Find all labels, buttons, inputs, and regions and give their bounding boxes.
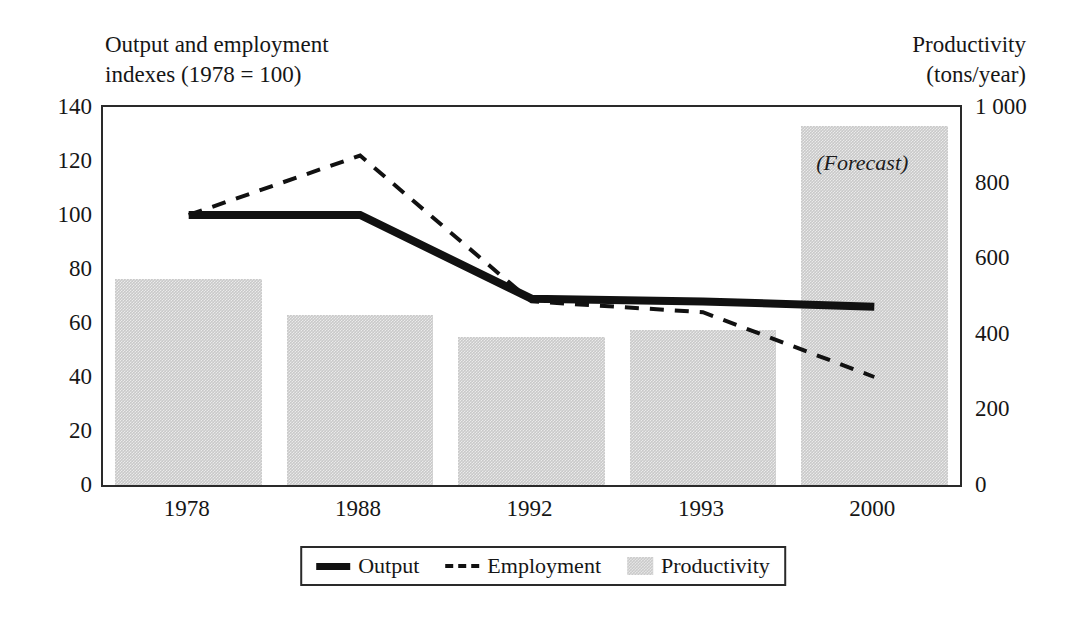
x-axis-tick: 1992 (507, 496, 553, 522)
legend-item-productivity[interactable]: Productivity (627, 553, 770, 579)
line-series-layer (103, 107, 960, 485)
legend-label: Output (358, 553, 419, 579)
right-axis-tick: 400 (975, 321, 1010, 347)
x-axis-tick: 1978 (164, 496, 210, 522)
left-axis-tick: 40 (69, 364, 92, 390)
x-axis-tick: 1993 (678, 496, 724, 522)
left-axis-tick: 80 (69, 256, 92, 282)
legend-swatch-filled-square-icon (627, 557, 653, 575)
left-axis-tick-labels: 140120100806040200 (0, 105, 92, 487)
x-axis-tick: 2000 (849, 496, 895, 522)
chart-root: Output and employment indexes (1978 = 10… (0, 0, 1086, 620)
left-axis-tick: 20 (69, 418, 92, 444)
left-axis-title-line2: indexes (1978 = 100) (105, 60, 329, 90)
plot-area: (Forecast) (101, 105, 962, 487)
line-employment (189, 156, 875, 377)
right-axis-tick: 800 (975, 170, 1010, 196)
left-axis-tick: 120 (58, 148, 93, 174)
left-axis-tick: 60 (69, 310, 92, 336)
line-output (189, 215, 875, 307)
x-axis-tick-labels: 19781988199219932000 (101, 496, 962, 530)
left-axis-tick: 140 (58, 94, 93, 120)
right-axis-tick: 1 000 (975, 94, 1027, 120)
right-axis-tick-labels: 1 0008006004002000 (975, 105, 1085, 487)
legend-label: Employment (487, 553, 601, 579)
right-axis-title-line2: (tons/year) (912, 60, 1026, 90)
legend-swatch-solid-line-icon (316, 563, 350, 570)
left-axis-title-line1: Output and employment (105, 30, 329, 60)
chart-legend: OutputEmploymentProductivity (300, 546, 786, 586)
right-axis-title-line1: Productivity (912, 30, 1026, 60)
x-axis-tick: 1988 (335, 496, 381, 522)
left-axis-title: Output and employment indexes (1978 = 10… (105, 30, 329, 90)
right-axis-tick: 600 (975, 245, 1010, 271)
legend-item-output[interactable]: Output (316, 553, 419, 579)
legend-label: Productivity (661, 553, 770, 579)
legend-item-employment[interactable]: Employment (445, 553, 601, 579)
right-axis-tick: 200 (975, 396, 1010, 422)
right-axis-title: Productivity (tons/year) (912, 30, 1026, 90)
right-axis-tick: 0 (975, 472, 987, 498)
left-axis-tick: 0 (81, 472, 93, 498)
left-axis-tick: 100 (58, 202, 93, 228)
legend-swatch-dashed-line-icon (445, 564, 479, 568)
